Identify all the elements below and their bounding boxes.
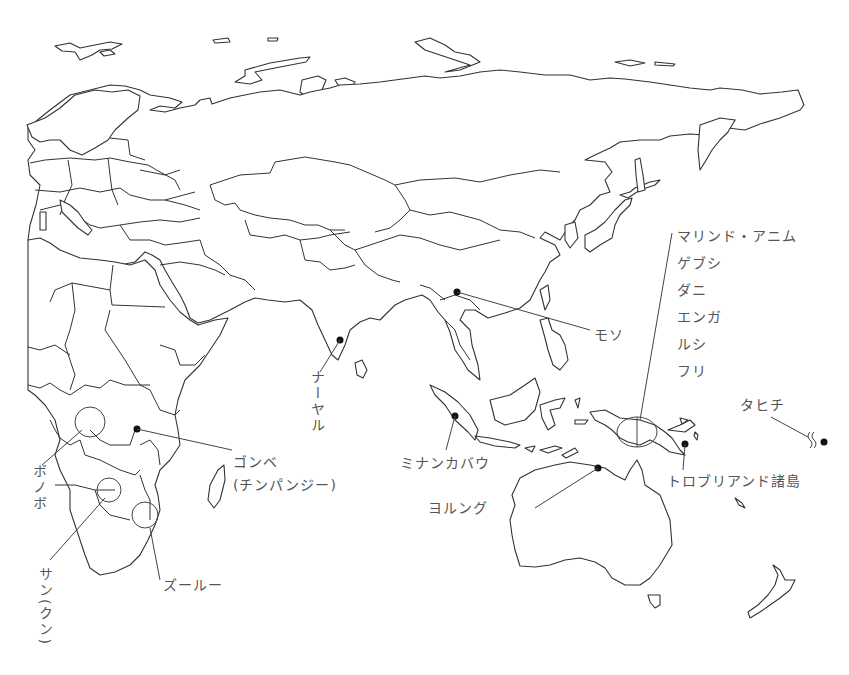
label-nayar: ナーヤル [309, 370, 324, 434]
label-enga: エンガ [677, 304, 797, 331]
label-bonobo: ボノボ [31, 464, 46, 512]
tahiti-marker [821, 439, 828, 446]
label-zulu: ズールー [163, 578, 223, 592]
sumatra [430, 385, 478, 440]
java [475, 436, 520, 448]
label-gombe-line2: (チンパンジー) [233, 478, 337, 492]
label-gebusi: ゲブシ [677, 250, 797, 277]
borneo [490, 378, 540, 425]
label-yolngu: ヨルング [428, 501, 488, 515]
sri-lanka [355, 360, 367, 378]
label-minangkabau: ミナンカバウ [400, 456, 490, 470]
label-gombe-line1: ゴンベ [233, 455, 278, 469]
japan [585, 198, 632, 252]
label-huli: フリ [677, 358, 797, 385]
madagascar [208, 465, 225, 508]
label-dani: ダニ [677, 277, 797, 304]
label-tahiti: タヒチ [740, 398, 785, 412]
label-trobriand: トロブリアンド諸島 [667, 474, 801, 488]
tasmania [648, 595, 660, 608]
kamchatka [698, 118, 735, 170]
philippines [540, 318, 568, 370]
new-zealand [748, 565, 795, 618]
australia [510, 460, 672, 585]
label-marind-anim: マリンド・アニム [677, 223, 797, 250]
label-mosuo: モソ [594, 328, 624, 342]
sulawesi [540, 398, 565, 430]
label-lusi: ルシ [677, 331, 797, 358]
label-san: サン(クン) [37, 567, 52, 646]
new-guinea-label-group: マリンド・アニム ゲブシ ダニ エンガ ルシ フリ [677, 223, 797, 385]
world-map: モソ ナーヤル ゴンベ (チンパンジー) ボノボ サン(クン) ズールー ミナン… [0, 0, 849, 675]
korea [565, 222, 578, 248]
